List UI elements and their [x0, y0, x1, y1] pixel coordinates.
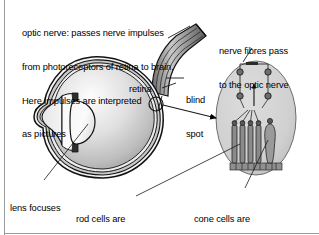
- nerve-fibres-note-line-1: nerve fibres pass: [219, 46, 289, 57]
- lens-note-line-1: lens focuses: [10, 203, 65, 214]
- blind-spot-label-line-2: spot: [186, 129, 205, 140]
- rod-cells-note: rod cells are photoreceptors sensitive t…: [76, 192, 177, 235]
- cone-cells-note: cone cells are photoreceptors sensitive …: [194, 192, 292, 235]
- optic-nerve-note-line-4: as pictures: [22, 129, 174, 140]
- rod-cells-note-line-1: rod cells are: [76, 214, 177, 225]
- blind-spot-label-line-1: blind: [186, 95, 205, 106]
- optic-nerve-note-line-1: optic nerve: passes nerve impulses: [22, 28, 174, 39]
- retina-label: retina: [129, 84, 152, 95]
- nerve-fibres-note-line-2: to the optic nerve: [219, 80, 289, 91]
- eye-diagram-figure: optic nerve: passes nerve impulses from …: [0, 0, 319, 235]
- blind-spot-label: blind spot: [186, 73, 205, 163]
- pigment-epithelium-layer: [230, 163, 282, 170]
- lens-note: lens focuses image of viewed object on t…: [10, 181, 65, 235]
- optic-nerve-note-line-2: from photoreceptors of retina to brain.: [22, 62, 174, 73]
- nerve-fibres-note: nerve fibres pass to the optic nerve: [219, 24, 289, 114]
- cone-cells-note-line-1: cone cells are: [194, 214, 292, 225]
- optic-nerve-note-line-3: Here impulses are interpreted: [22, 96, 174, 107]
